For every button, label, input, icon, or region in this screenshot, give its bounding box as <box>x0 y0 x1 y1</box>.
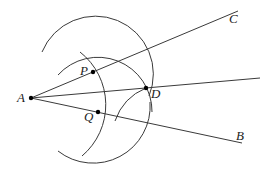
arc-center-q-outer <box>58 102 150 163</box>
arc-center-p-outer <box>42 16 153 96</box>
label-c: C <box>229 12 238 25</box>
point-a <box>29 96 33 100</box>
ray-ac <box>31 11 238 98</box>
ray-ab <box>31 98 242 143</box>
label-p: P <box>80 64 88 77</box>
point-q <box>96 110 100 114</box>
label-a: A <box>17 91 25 104</box>
label-b: B <box>236 129 244 142</box>
arc-center-p-through-d <box>115 88 146 121</box>
point-d <box>144 86 148 90</box>
label-q: Q <box>84 110 93 123</box>
arc-center-q-through-d <box>58 57 152 112</box>
label-d: D <box>151 87 160 100</box>
construction-diagram <box>0 0 272 177</box>
point-p <box>91 70 95 74</box>
